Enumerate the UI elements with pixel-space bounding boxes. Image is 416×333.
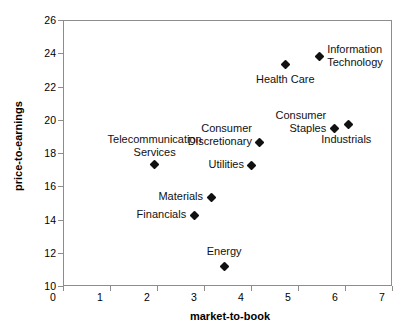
data-point (255, 137, 265, 147)
data-point (343, 120, 353, 130)
data-point (189, 210, 199, 220)
data-points-layer: Telecommunication ServicesHealth CareInf… (0, 0, 416, 333)
data-point-label: Energy (164, 245, 284, 258)
data-point-label: Industrials (312, 133, 380, 146)
data-point-label: Information Technology (327, 43, 383, 69)
data-point (247, 161, 257, 171)
data-point-label: Consumer Staples (275, 109, 326, 135)
data-point (280, 60, 290, 70)
data-point-label: Materials (158, 190, 203, 203)
data-point-label: Utilities (209, 158, 244, 171)
data-point (150, 160, 160, 170)
data-point-label: Financials (137, 208, 187, 221)
data-point-label: Health Care (225, 73, 345, 86)
scatter-chart: price-to-earnings market-to-book 1012141… (0, 0, 416, 333)
data-point (219, 261, 229, 271)
data-point (314, 52, 324, 62)
data-point-label: Consumer Discretionary (188, 122, 252, 148)
data-point (206, 192, 216, 202)
